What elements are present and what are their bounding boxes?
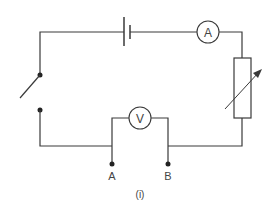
- ammeter-symbol: A: [204, 26, 212, 40]
- voltmeter: V: [129, 107, 151, 129]
- wire-voltmeter-left: [112, 118, 129, 164]
- wire-voltmeter-right: [151, 118, 168, 164]
- wire-top-left: [40, 32, 124, 75]
- voltmeter-symbol: V: [136, 112, 144, 126]
- ammeter: A: [197, 21, 219, 43]
- battery-icon: [124, 17, 130, 46]
- terminal-a-label: A: [108, 170, 116, 182]
- wire-switch-bottom: [40, 110, 112, 146]
- diagram-caption: (i): [136, 189, 145, 200]
- wire-ammeter-resistor: [219, 32, 242, 58]
- circuit-diagram: A V A B (i): [0, 0, 273, 217]
- terminal-b-label: B: [164, 170, 171, 182]
- variable-resistor-icon: [225, 58, 262, 118]
- wire-resistor-bottom: [168, 118, 242, 146]
- terminal-a-dot: [110, 162, 115, 167]
- terminal-b-dot: [166, 162, 171, 167]
- switch-icon: [20, 73, 43, 113]
